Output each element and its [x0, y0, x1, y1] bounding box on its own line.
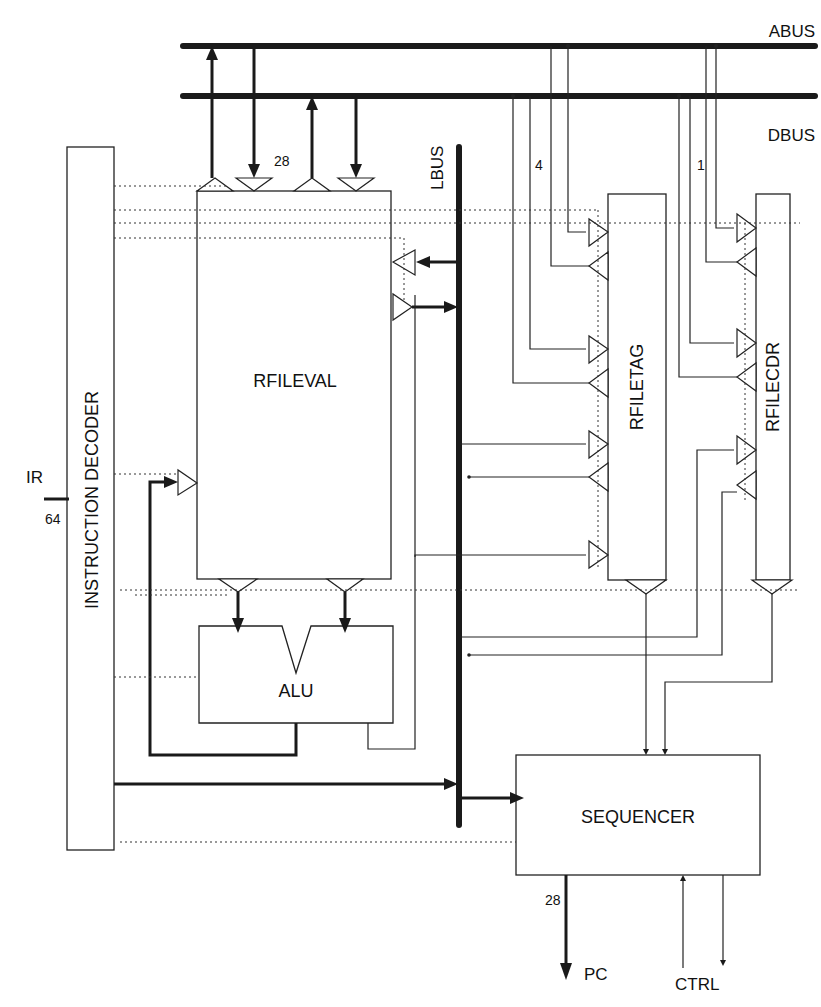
rfiletag-block: RFILETAG [589, 194, 666, 594]
ir-input: IR 64 [26, 468, 69, 527]
pc-width: 28 [545, 892, 561, 908]
alu-label: ALU [278, 681, 313, 701]
cpu-block-diagram: ABUS DBUS LBUS INSTRUCTION DECODER IR 64… [0, 0, 821, 1007]
rfileval-label: RFILEVAL [253, 371, 337, 391]
sequencer-block: SEQUENCER [516, 755, 760, 875]
dbus: DBUS [183, 96, 815, 145]
abus-label: ABUS [769, 22, 815, 41]
ir-label: IR [26, 468, 43, 487]
rfiletag-label: RFILETAG [627, 344, 647, 431]
rfileval-block: RFILEVAL 28 [178, 153, 415, 592]
pc-label: PC [584, 965, 608, 984]
instruction-decoder-label: INSTRUCTION DECODER [82, 391, 102, 609]
rfileval-bus-width: 28 [274, 153, 290, 169]
ctrl-label: CTRL [675, 975, 719, 994]
sequencer-label: SEQUENCER [581, 807, 695, 827]
rfilecdr-width: 1 [697, 157, 705, 173]
rfiletag-width: 4 [535, 157, 543, 173]
lbus: LBUS [428, 146, 459, 825]
ir-width-label: 64 [45, 511, 61, 527]
dbus-label: DBUS [768, 126, 815, 145]
abus: ABUS [183, 22, 815, 46]
instruction-decoder-block: INSTRUCTION DECODER [67, 147, 114, 850]
alu-block: ALU [199, 626, 393, 723]
lbus-label: LBUS [428, 146, 447, 190]
rfilecdr-label: RFILECDR [763, 342, 783, 432]
